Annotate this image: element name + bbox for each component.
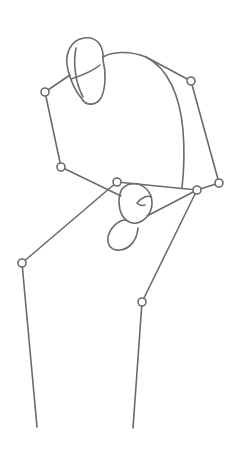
joint-right-hip: [193, 186, 201, 194]
joint-left-elbow: [57, 163, 65, 171]
bone-thigh-left: [22, 182, 117, 263]
bone-thigh-right: [142, 190, 197, 302]
joint-left-knee: [18, 259, 26, 267]
bone-shin-left: [22, 263, 37, 427]
hip-line: [117, 182, 197, 190]
figure-drawing: [0, 0, 241, 452]
pelvis-lower-blob: [108, 220, 138, 250]
bone-hip-cross: [147, 190, 197, 216]
bone-forearm-left: [61, 167, 121, 196]
skeleton-bones: [22, 57, 219, 428]
joint-right-knee: [138, 298, 146, 306]
torso: [103, 52, 197, 190]
joint-left-hip: [113, 178, 121, 186]
joint-right-wrist: [215, 179, 223, 187]
joint-left-shoulder: [41, 88, 49, 96]
bone-shin-right: [133, 302, 142, 428]
pelvis-upper-blob: [119, 184, 152, 224]
pelvis-inner-mark: [137, 196, 151, 205]
head: [67, 38, 105, 104]
joint-right-shoulder: [187, 77, 195, 85]
bone-upper-arm-right: [191, 81, 219, 183]
torso-back-curve: [103, 52, 184, 188]
head-outline: [67, 38, 105, 104]
bone-upper-arm-left: [45, 92, 61, 167]
